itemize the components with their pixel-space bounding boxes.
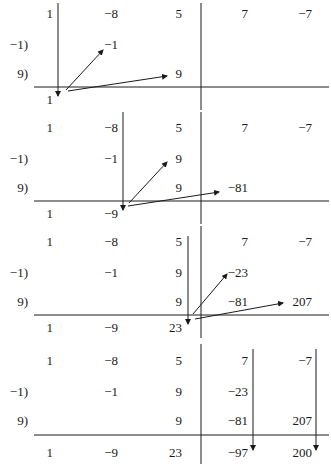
svg-text:1: 1 (47, 234, 54, 249)
coef: 1 (47, 6, 54, 21)
svg-text:−8: −8 (104, 120, 118, 135)
svg-text:1: 1 (47, 320, 54, 335)
result-cell: 1 (47, 92, 54, 107)
svg-text:1: 1 (47, 206, 54, 221)
svg-text:23: 23 (169, 320, 182, 335)
svg-text:9): 9) (17, 180, 28, 195)
arrow (68, 76, 167, 91)
svg-text:9: 9 (176, 413, 183, 428)
svg-text:9: 9 (176, 151, 183, 166)
coef: 7 (242, 6, 249, 21)
svg-text:−1: −1 (104, 151, 118, 166)
svg-text:9: 9 (176, 180, 183, 195)
svg-text:7: 7 (242, 353, 249, 368)
svg-text:−7: −7 (298, 353, 312, 368)
svg-text:−1): −1) (10, 151, 28, 166)
svg-text:9): 9) (17, 413, 28, 428)
panel-2: 1 −8 5 7 −7 −1) 9) −1 9 9 −81 1 −9 (10, 112, 329, 224)
svg-text:5: 5 (176, 234, 183, 249)
panel-4: 1 −8 5 7 −7 −1) 9) −1 9 −23 9 −81 207 1 … (10, 344, 329, 464)
arrow (66, 50, 103, 90)
svg-text:−81: −81 (228, 413, 248, 428)
svg-text:1: 1 (47, 120, 54, 135)
svg-text:−97: −97 (228, 445, 249, 460)
svg-text:9: 9 (176, 265, 183, 280)
svg-text:9): 9) (17, 294, 28, 309)
svg-text:−81: −81 (228, 180, 248, 195)
svg-text:9: 9 (176, 384, 183, 399)
svg-text:−9: −9 (104, 320, 118, 335)
panel-1: 1 −8 5 7 −7 −1) 9) −1 9 1 (10, 3, 329, 110)
svg-text:7: 7 (242, 234, 249, 249)
svg-text:−1): −1) (10, 265, 28, 280)
svg-text:9: 9 (176, 294, 183, 309)
cell: −1 (104, 37, 118, 52)
svg-text:207: 207 (293, 413, 313, 428)
svg-text:−9: −9 (104, 206, 118, 221)
svg-text:5: 5 (176, 120, 183, 135)
svg-text:−8: −8 (104, 234, 118, 249)
svg-text:23: 23 (169, 445, 182, 460)
svg-text:207: 207 (293, 294, 313, 309)
divisor-label: 9) (17, 66, 28, 81)
svg-text:−1: −1 (104, 384, 118, 399)
svg-text:−7: −7 (298, 234, 312, 249)
svg-text:−7: −7 (298, 120, 312, 135)
svg-text:−8: −8 (104, 353, 118, 368)
svg-text:200: 200 (293, 445, 313, 460)
svg-text:−23: −23 (228, 265, 248, 280)
svg-text:−81: −81 (228, 294, 248, 309)
divisor-label: −1) (10, 37, 28, 52)
svg-text:−1): −1) (10, 384, 28, 399)
coef: 5 (176, 6, 183, 21)
svg-text:−23: −23 (228, 384, 248, 399)
cell: 9 (176, 66, 183, 81)
svg-text:−1: −1 (104, 265, 118, 280)
synthetic-division-figure: 1 −8 5 7 −7 −1) 9) −1 9 1 1 −8 5 7 −7 −1… (0, 0, 331, 470)
svg-text:5: 5 (176, 353, 183, 368)
svg-text:1: 1 (47, 445, 54, 460)
panel-3: 1 −8 5 7 −7 −1) 9) −1 9 −23 9 −81 207 1 … (10, 226, 329, 338)
svg-text:7: 7 (242, 120, 249, 135)
svg-text:1: 1 (47, 353, 54, 368)
coef: −8 (104, 6, 118, 21)
svg-text:−9: −9 (104, 445, 118, 460)
coef: −7 (298, 6, 312, 21)
